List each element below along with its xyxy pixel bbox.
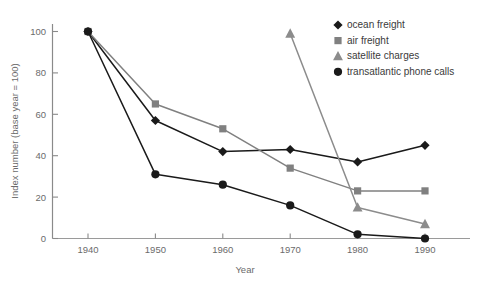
- legend-label: air freight: [347, 35, 389, 46]
- x-tick-label-1960: 1960: [212, 244, 233, 255]
- line-chart: 0 20 40 60 80 100 Index number (base yea…: [0, 0, 482, 285]
- data-point-1970: [286, 201, 294, 209]
- x-axis-title: Year: [235, 264, 254, 275]
- legend-label: ocean freight: [347, 19, 405, 30]
- data-point-1950: [151, 170, 159, 178]
- data-point-1940: [84, 27, 92, 35]
- x-tick-label-1940: 1940: [77, 244, 98, 255]
- data-point-1950: [152, 100, 159, 107]
- x-tick-label-1980: 1980: [347, 244, 368, 255]
- x-tick-label-1990: 1990: [414, 244, 435, 255]
- y-tick-label-80: 80: [35, 67, 46, 78]
- data-point-1990: [421, 187, 428, 194]
- circle-marker-icon: [334, 68, 342, 76]
- y-tick-label-100: 100: [30, 26, 46, 37]
- y-tick-label-60: 60: [35, 109, 46, 120]
- data-point-1960: [219, 125, 226, 132]
- data-point-1990: [421, 234, 429, 242]
- x-tick-label-1970: 1970: [280, 244, 301, 255]
- chart-figure: 0 20 40 60 80 100 Index number (base yea…: [0, 0, 482, 285]
- chart-background: [0, 0, 482, 285]
- x-tick-label-1950: 1950: [145, 244, 166, 255]
- data-point-1980: [354, 187, 361, 194]
- data-point-1960: [219, 181, 227, 189]
- y-tick-label-20: 20: [35, 192, 46, 203]
- data-point-1980: [354, 230, 362, 238]
- legend-entry-transatlantic-phone-calls[interactable]: transatlantic phone calls: [334, 66, 454, 77]
- y-tick-label-40: 40: [35, 150, 46, 161]
- y-axis-title: Index number (base year = 100): [9, 63, 20, 198]
- data-point-1970: [287, 165, 294, 172]
- square-marker-icon: [334, 37, 341, 44]
- legend-label: transatlantic phone calls: [347, 66, 454, 77]
- legend-label: satellite charges: [347, 50, 419, 61]
- y-tick-label-0: 0: [41, 233, 46, 244]
